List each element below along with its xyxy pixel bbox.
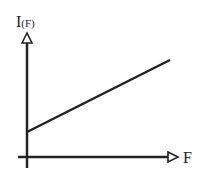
y-axis-label-sub: (F) [21, 17, 35, 30]
x-axis-arrowhead-icon [168, 152, 178, 162]
graph-canvas: I(F) F [0, 0, 206, 182]
x-axis-label: F [183, 149, 192, 166]
y-axis-label: I(F) [16, 13, 35, 30]
y-axis-arrowhead-icon [22, 33, 32, 43]
function-line [27, 60, 170, 132]
